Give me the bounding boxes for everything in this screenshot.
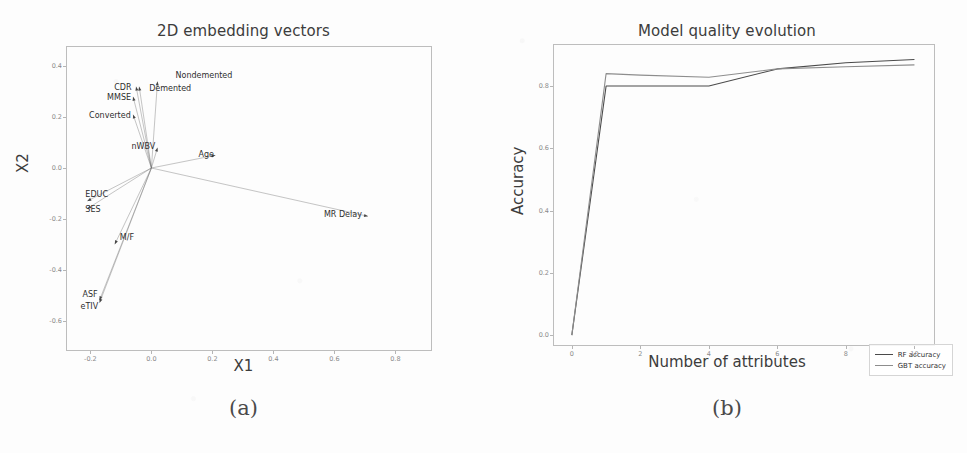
embedding-point-label: ASF: [83, 290, 98, 299]
axis-tick-mark: [550, 211, 553, 212]
two-panel-figure: 2D embedding vectors X1 X2 -0.20.00.20.4…: [0, 0, 967, 453]
axis-tick-mark: [572, 346, 573, 349]
panel-a-x-tick: -0.2: [84, 355, 97, 363]
axis-tick-mark: [550, 86, 553, 87]
panel-a-x-tick: 0.8: [390, 355, 400, 363]
axis-tick-mark: [777, 346, 778, 349]
axis-tick-mark: [90, 351, 91, 354]
legend-line-swatch: [875, 354, 893, 355]
embedding-point-label: EDUC: [85, 190, 108, 199]
panel-b-x-tick: 4: [707, 350, 711, 358]
axis-tick-mark: [151, 351, 152, 354]
legend-label: RF accuracy: [898, 351, 941, 359]
embedding-point-label: nWBV: [132, 142, 156, 151]
embedding-point-label: Age: [198, 150, 213, 159]
embedding-point-label: Demented: [149, 84, 191, 93]
panel-a-y-axis-label: X2: [14, 153, 32, 173]
panel-b-x-tick: 6: [775, 350, 779, 358]
panel-b-x-tick: 10: [910, 350, 918, 358]
axis-tick-mark: [63, 117, 66, 118]
legend-item: GBT accuracy: [875, 360, 946, 371]
panel-b-model-quality-line: Model quality evolution Number of attrib…: [487, 0, 967, 390]
axis-tick-mark: [914, 346, 915, 349]
panel-b-y-axis-label: Accuracy: [509, 147, 527, 215]
panel-b-x-tick: 8: [844, 350, 848, 358]
axis-tick-mark: [709, 346, 710, 349]
embedding-point-label: SES: [85, 205, 100, 214]
panel-a-y-tick: -0.2: [44, 215, 62, 223]
axis-tick-mark: [212, 351, 213, 354]
axis-tick-mark: [550, 148, 553, 149]
panel-b-x-tick: 2: [638, 350, 642, 358]
axis-tick-mark: [395, 351, 396, 354]
panel-b-legend: RF accuracyGBT accuracy: [869, 344, 953, 376]
panel-a-x-axis-label: X1: [0, 357, 487, 375]
embedding-point-label: M/F: [120, 233, 134, 242]
axis-tick-mark: [273, 351, 274, 354]
axis-tick-mark: [63, 270, 66, 271]
panel-a-y-tick: 0.0: [44, 164, 62, 172]
panel-a-x-tick: 0.0: [146, 355, 156, 363]
axis-tick-mark: [334, 351, 335, 354]
axis-tick-mark: [550, 335, 553, 336]
panel-b-y-tick: 0.4: [533, 207, 549, 215]
panel-a-y-tick: -0.6: [44, 317, 62, 325]
axis-tick-mark: [550, 273, 553, 274]
panel-a-y-tick: 0.4: [44, 62, 62, 70]
subfigure-caption-b: (b): [487, 396, 967, 420]
panel-a-embedding-scatter: 2D embedding vectors X1 X2 -0.20.00.20.4…: [0, 0, 487, 390]
embedding-point-label: MMSE: [107, 93, 131, 102]
legend-line-swatch: [875, 365, 893, 366]
axis-tick-mark: [63, 66, 66, 67]
panel-b-y-tick: 0.2: [533, 269, 549, 277]
panel-b-y-tick: 0.8: [533, 82, 549, 90]
panel-b-y-tick: 0.0: [533, 331, 549, 339]
axis-tick-mark: [63, 321, 66, 322]
panel-a-y-tick: 0.2: [44, 113, 62, 121]
panel-b-canvas: [487, 0, 967, 390]
panel-a-canvas: [0, 0, 487, 390]
panel-a-x-tick: 0.4: [268, 355, 278, 363]
subfigure-caption-a: (a): [0, 396, 487, 420]
panel-a-x-tick: 0.6: [329, 355, 339, 363]
embedding-point-label: CDR: [114, 83, 131, 92]
panel-a-y-tick: -0.4: [44, 266, 62, 274]
axis-tick-mark: [63, 219, 66, 220]
embedding-point-label: MR Delay: [324, 210, 362, 219]
axis-tick-mark: [846, 346, 847, 349]
embedding-point-label: Converted: [89, 111, 131, 120]
axis-tick-mark: [640, 346, 641, 349]
panel-b-y-tick: 0.6: [533, 144, 549, 152]
embedding-point-label: Nondemented: [176, 71, 233, 80]
panel-b-x-tick: 0: [570, 350, 574, 358]
axis-tick-mark: [63, 168, 66, 169]
legend-label: GBT accuracy: [898, 362, 946, 370]
embedding-point-label: eTIV: [81, 302, 99, 311]
panel-a-x-tick: 0.2: [207, 355, 217, 363]
